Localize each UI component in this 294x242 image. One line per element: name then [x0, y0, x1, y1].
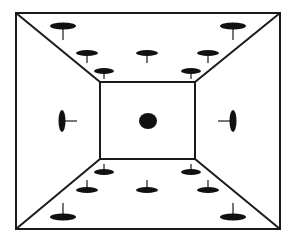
pin-head [76, 50, 98, 56]
pin-head [197, 187, 219, 193]
pin-head [181, 68, 201, 74]
pin-head [220, 214, 246, 221]
pin-icon [50, 203, 76, 221]
pin-icon [181, 164, 201, 175]
center-dot [139, 113, 157, 129]
pin-icon [136, 180, 158, 193]
pin-head [94, 169, 114, 175]
pin-head [136, 187, 158, 193]
pin-head [50, 23, 76, 30]
perspective-room-diagram [0, 0, 294, 242]
pin-icon [197, 180, 219, 193]
pin-head [136, 50, 158, 56]
pin-head [197, 50, 219, 56]
pin-icon [218, 110, 237, 132]
center-dot-icon [139, 113, 157, 129]
pin-icon [50, 23, 76, 41]
pin-head [94, 68, 114, 74]
pin-head [181, 169, 201, 175]
pin-icon [220, 23, 246, 41]
pin-head [50, 214, 76, 221]
pin-icon [59, 110, 78, 132]
pin-head [59, 110, 66, 132]
ceiling-pins [50, 23, 246, 80]
pin-icon [181, 68, 201, 79]
pin-icon [136, 50, 158, 63]
pin-icon [94, 68, 114, 79]
pin-head [220, 23, 246, 30]
pin-icon [76, 50, 98, 63]
pin-head [76, 187, 98, 193]
pin-icon [94, 164, 114, 175]
pin-head [230, 110, 237, 132]
pin-icon [76, 180, 98, 193]
floor-pins [50, 164, 246, 221]
pin-icon [220, 203, 246, 221]
pin-icon [197, 50, 219, 63]
